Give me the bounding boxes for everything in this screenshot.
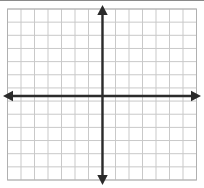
coordinate-plane [0,0,204,188]
axes [3,5,201,185]
y-axis-positive-arrow [97,5,107,15]
coordinate-grid-figure [0,0,204,188]
